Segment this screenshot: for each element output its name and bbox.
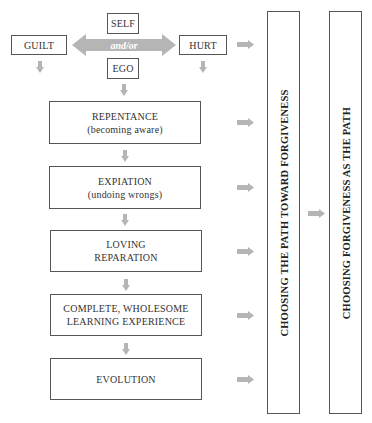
self-box: SELF: [107, 13, 139, 34]
arrow-right-icon: [237, 375, 254, 384]
step-subtitle: (undoing wrongs): [88, 188, 163, 201]
hurt-label: HURT: [189, 39, 216, 52]
arrow-down-icon: [122, 279, 130, 291]
and-or-label: and/or: [72, 40, 176, 51]
column-path-toward-forgiveness: CHOOSING THE PATH TOWARD FORGIVENESS: [267, 11, 300, 414]
arrow-right-icon: [237, 247, 254, 256]
arrow-right-icon: [237, 311, 254, 320]
step-subtitle: REPARATION: [94, 251, 157, 264]
arrow-down-icon: [121, 150, 129, 162]
step-learning-experience: COMPLETE, WHOLESOME LEARNING EXPERIENCE: [50, 294, 202, 336]
ego-label: EGO: [112, 62, 133, 75]
column-label: CHOOSING FORGIVENESS AS THE PATH: [340, 106, 351, 318]
arrow-down-icon: [122, 343, 130, 355]
step-subtitle: LEARNING EXPERIENCE: [67, 315, 186, 328]
step-expiation: EXPIATION (undoing wrongs): [49, 166, 201, 209]
step-repentance: REPENTANCE (becoming aware): [49, 101, 201, 144]
hurt-box: HURT: [179, 35, 227, 55]
step-subtitle: (becoming aware): [87, 123, 163, 136]
step-title: EXPIATION: [98, 175, 152, 188]
self-label: SELF: [111, 17, 135, 30]
step-title: EVOLUTION: [96, 373, 156, 386]
arrow-right-icon: [237, 118, 254, 127]
arrow-down-icon: [121, 214, 129, 226]
arrow-down-icon: [199, 61, 207, 73]
step-title: COMPLETE, WHOLESOME: [63, 302, 188, 315]
arrow-right-icon: [308, 209, 325, 218]
guilt-label: GUILT: [24, 39, 54, 52]
arrow-right-icon: [237, 40, 254, 49]
arrow-right-icon: [237, 183, 254, 192]
step-title: LOVING: [106, 238, 146, 251]
double-arrow: and/or: [72, 34, 176, 56]
column-forgiveness-as-path: CHOOSING FORGIVENESS AS THE PATH: [329, 11, 362, 414]
arrow-down-icon: [120, 84, 128, 96]
arrow-down-icon: [36, 61, 44, 73]
step-title: REPENTANCE: [92, 110, 158, 123]
ego-box: EGO: [107, 58, 139, 79]
column-label: CHOOSING THE PATH TOWARD FORGIVENESS: [278, 89, 289, 336]
step-evolution: EVOLUTION: [50, 358, 202, 400]
step-loving-reparation: LOVING REPARATION: [50, 230, 202, 272]
guilt-box: GUILT: [11, 35, 67, 55]
